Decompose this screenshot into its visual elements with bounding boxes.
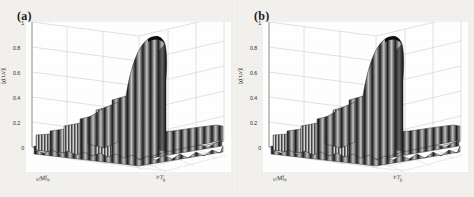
z-tick-a-2: 0.4 [4,95,20,101]
z-tick-b-2: 0.4 [241,95,257,101]
z-tick-a-5: 1 [8,20,24,26]
z-tick-a-1: 0.2 [4,120,20,126]
panel-a: (a) |χ(τ,ν)| 1 0.8 0.6 0.4 0.2 0 0.5 0 -… [0,0,237,197]
plot-area-a [26,22,231,172]
z-tick-b-5: 1 [245,20,261,26]
plot-area-b [263,22,468,172]
surface-plot-a [26,22,231,172]
ambiguity-function-figure: (a) |χ(τ,ν)| 1 0.8 0.6 0.4 0.2 0 0.5 0 -… [0,0,474,197]
y-axis-title-a: ν/Mfb [35,174,50,184]
z-tick-b-4: 0.8 [241,45,257,51]
z-tick-b-1: 0.2 [241,120,257,126]
x-axis-title-b: τ/Tb [393,174,403,183]
y-axis-title-b: ν/Mfb [272,174,287,184]
surface-plot-b [263,22,468,172]
panel-b: (b) |χ(τ,ν)| 1 0.8 0.6 0.4 0.2 0 0.5 0 -… [237,0,474,197]
z-tick-a-0: 0 [8,145,24,151]
z-tick-a-3: 0.6 [4,70,20,76]
z-tick-b-3: 0.6 [241,70,257,76]
x-axis-title-a: τ/Tb [156,174,166,183]
z-tick-b-0: 0 [245,145,261,151]
z-tick-a-4: 0.8 [4,45,20,51]
